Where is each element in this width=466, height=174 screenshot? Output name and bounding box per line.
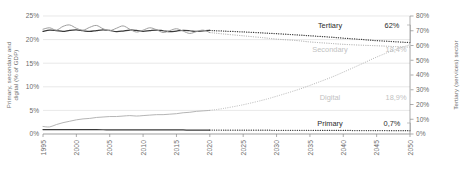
y-axis-tick-label: 20%	[26, 36, 39, 43]
series-line-historical	[43, 110, 210, 127]
y2-axis-tick-label: 60%	[416, 42, 429, 49]
series-label-name: Tertiary	[318, 21, 343, 30]
series-label-value: 62%	[385, 21, 400, 30]
series-label-value: 18,4%	[386, 45, 407, 54]
callout-secondary: Secondary18,4%	[312, 45, 411, 54]
series-line-forecast	[210, 30, 410, 42]
x-axis-tick-label: 2015	[173, 140, 180, 156]
y2-axis-tick-label: 70%	[416, 27, 429, 34]
chart-container: 0%5%10%15%20%25%0%10%20%30%40%50%60%70%8…	[0, 0, 466, 174]
series-line-forecast	[210, 130, 410, 131]
series-label-value: 18,9%	[386, 93, 407, 102]
y2-axis-tick-label: 0%	[416, 130, 426, 137]
y-axis-tick-label: 5%	[29, 107, 39, 114]
y2-axis-tick-label: 80%	[416, 12, 429, 19]
dual-axis-line-chart: 0%5%10%15%20%25%0%10%20%30%40%50%60%70%8…	[0, 0, 466, 174]
x-axis-tick-label: 2025	[240, 140, 247, 156]
y2-axis-tick-label: 30%	[416, 86, 429, 93]
y-axis-tick-label: 0%	[29, 130, 39, 137]
x-axis-tick-label: 2030	[273, 140, 280, 156]
x-axis-tick-label: 2020	[206, 140, 213, 156]
callout-primary: Primary0,7%	[317, 119, 410, 131]
series-label-name: Digital	[320, 93, 341, 102]
series-label-name: Primary	[317, 119, 343, 128]
y2-axis-title: Tertiary (services) sector	[452, 40, 459, 110]
series-line-forecast	[210, 45, 410, 111]
x-axis-tick-label: 2000	[73, 140, 80, 156]
series-primary	[43, 130, 410, 131]
x-axis-tick-label: 2045	[373, 140, 380, 156]
y-axis-title-line2: digital (% of GDP)	[12, 50, 19, 101]
x-axis-tick-label: 2005	[106, 140, 113, 156]
x-axis-tick-label: 2035	[307, 140, 314, 156]
series-label-value: 0,7%	[384, 119, 401, 128]
series-secondary	[43, 25, 410, 47]
series-digital	[43, 45, 410, 127]
series-label-name: Secondary	[312, 45, 348, 54]
y-axis-title: Primary, secondary and	[5, 42, 12, 109]
series-line-historical	[43, 130, 210, 131]
y2-axis-tick-label: 20%	[416, 101, 429, 108]
y-axis-tick-label: 25%	[26, 12, 39, 19]
y2-axis-tick-label: 40%	[416, 71, 429, 78]
x-axis-tick-label: 2050	[407, 140, 414, 156]
x-axis-tick-label: 2010	[140, 140, 147, 156]
x-axis-tick-label: 1995	[40, 140, 47, 156]
x-axis-tick-label: 2040	[340, 140, 347, 156]
series-tertiary	[43, 30, 410, 43]
y2-axis-tick-label: 10%	[416, 116, 429, 123]
y-axis-tick-label: 15%	[26, 60, 39, 67]
y-axis-tick-label: 10%	[26, 83, 39, 90]
series-line-historical	[43, 25, 210, 34]
y2-axis-tick-label: 50%	[416, 57, 429, 64]
